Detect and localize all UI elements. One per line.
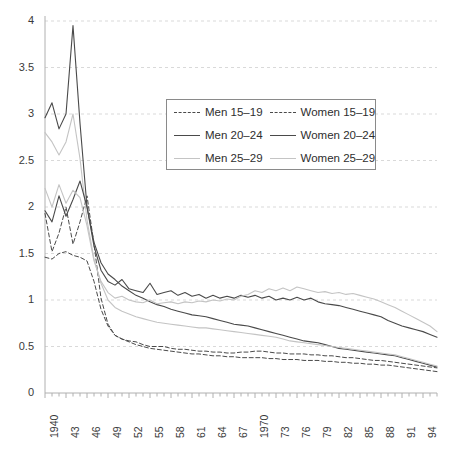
x-tick-label: 61 [196,426,206,438]
x-tick-label: 1940 [49,415,59,438]
legend-entry: Women 20–24 [263,129,376,141]
legend-line-swatch [270,153,296,163]
x-tick-label: 88 [385,426,395,438]
legend-label: Women 15–19 [301,106,376,118]
legend-label: Men 20–24 [205,129,263,141]
y-tick-label: 0 [0,387,34,398]
x-tick-label: 79 [322,426,332,438]
axis-lines [45,16,437,393]
legend-entry: Men 20–24 [167,129,263,141]
x-tick-label: 91 [406,426,416,438]
y-tick-label: 3 [0,108,34,119]
legend-grid: Men 15–19Women 15–19Men 20–24Women 20–24… [167,100,375,169]
legend-label: Men 25–29 [205,152,263,164]
gridlines [45,21,437,347]
series-line-women_20_24 [45,181,437,337]
legend-label: Women 25–29 [301,152,376,164]
x-tick-label: 82 [343,426,353,438]
legend-label: Men 15–19 [205,106,263,118]
y-tick-label: 1.5 [0,248,34,259]
y-tick-label: 3.5 [0,62,34,73]
x-tick-label: 58 [175,426,185,438]
line-chart: 00.511.522.533.54 1940434649525558616467… [0,0,451,456]
legend-line-swatch [174,130,200,140]
x-tick-label: 43 [70,426,80,438]
series-line-men_15_19 [45,196,437,368]
y-tick-label: 2.5 [0,155,34,166]
x-tick-label: 76 [301,426,311,438]
x-tick-label: 73 [280,426,290,438]
y-tick-label: 0.5 [0,341,34,352]
y-tick-label: 4 [0,15,34,26]
x-tick-label: 64 [217,426,227,438]
legend-line-swatch [270,107,296,117]
legend-label: Women 20–24 [301,129,376,141]
x-tick-label: 67 [238,426,248,438]
x-tick-label: 46 [91,426,101,438]
x-tick-label: 55 [154,426,164,438]
chart-legend: Men 15–19Women 15–19Men 20–24Women 20–24… [166,99,376,170]
y-tick-label: 1 [0,294,34,305]
y-tick-label: 2 [0,201,34,212]
series-line-women_25_29 [45,185,437,332]
data-series [45,26,437,372]
x-tick-label: 1970 [259,415,269,438]
legend-line-swatch [270,130,296,140]
legend-entry: Women 15–19 [263,106,376,118]
legend-entry: Men 25–29 [167,152,263,164]
legend-line-swatch [174,153,200,163]
plot-area [0,0,451,456]
legend-entry: Men 15–19 [167,106,263,118]
x-tick-label: 49 [112,426,122,438]
legend-entry: Women 25–29 [263,152,376,164]
x-tick-label: 85 [364,426,374,438]
x-tick-label: 52 [133,426,143,438]
x-tick-marks [45,393,437,398]
x-tick-label: 94 [427,426,437,438]
legend-line-swatch [174,107,200,117]
